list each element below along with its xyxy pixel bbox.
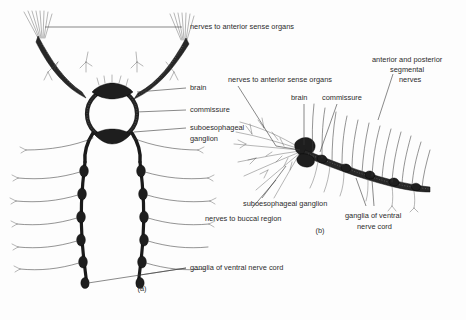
suboesophageal-ganglion-structure <box>94 129 131 144</box>
label-nerves-anterior-a: nerves to anterior sense organs <box>190 22 294 31</box>
label-nerves-buccal-b: nerves to buccal region <box>205 214 281 223</box>
panel-a-diagram <box>10 11 216 289</box>
nervous-system-figure: nerves to anterior sense organs brain co… <box>0 0 466 320</box>
label-segmental-b-line3: nerves <box>399 75 421 84</box>
label-ganglia-ventral-b-line2: nerve cord <box>357 222 392 231</box>
label-brain-b: brain <box>291 93 307 102</box>
label-brain-a: brain <box>190 83 206 92</box>
left-connective <box>36 36 86 98</box>
label-suboesophageal-a-line1: suboesophageal <box>190 123 245 132</box>
left-anterior-nerve-fan-icon <box>24 11 52 38</box>
panel-b-leaders <box>238 74 393 208</box>
right-cord-descender <box>132 133 140 162</box>
segmental-ganglia-pairs <box>77 165 149 289</box>
left-cord-descender <box>85 133 93 162</box>
caption-panel-b: (b) <box>315 226 324 235</box>
label-segmental-b-line1: anterior and posterior <box>372 55 443 64</box>
label-ganglia-ventral-a: ganglia of ventral nerve cord <box>190 263 283 272</box>
caption-panel-a: (a) <box>137 284 146 293</box>
ventral-nerve-cord <box>81 162 144 286</box>
panel-a-leaders <box>45 27 186 283</box>
brain-structure <box>92 83 133 99</box>
label-nerves-anterior-b: nerves to anterior sense organs <box>228 75 332 84</box>
label-commissure-a: commissure <box>190 105 230 114</box>
label-ganglia-ventral-b-line1: ganglia of ventral <box>345 211 402 220</box>
label-suboesophageal-a-line2: ganglion <box>190 134 218 143</box>
label-suboesophageal-b: suboesophageal ganglion <box>243 199 327 208</box>
lateral-segmental-nerves <box>10 172 216 272</box>
label-segmental-b-line2: segmental <box>390 65 424 74</box>
label-commissure-b: commissure <box>322 93 362 102</box>
